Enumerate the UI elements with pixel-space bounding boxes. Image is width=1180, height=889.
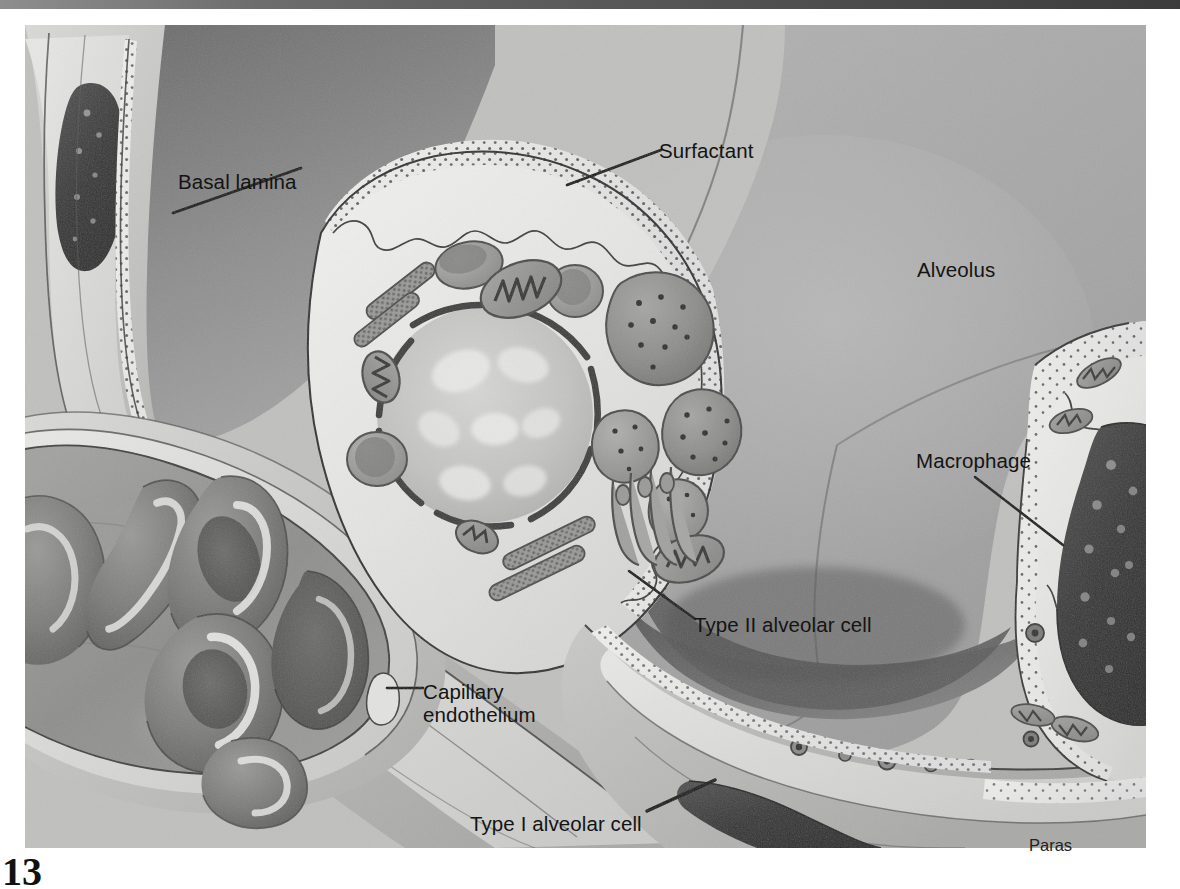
label-macrophage: Macrophage bbox=[916, 449, 1031, 472]
page-number: 13 bbox=[2, 852, 42, 889]
artist-signature: Paras bbox=[1029, 836, 1072, 855]
erythrocyte bbox=[201, 738, 307, 828]
illustration-plate bbox=[25, 25, 1146, 848]
scan-edge-band bbox=[0, 0, 1180, 9]
illustration-svg bbox=[25, 25, 1146, 848]
label-type-i-alveolar-cell: Type I alveolar cell bbox=[470, 812, 642, 835]
label-type-ii-alveolar-cell: Type II alveolar cell bbox=[694, 613, 872, 636]
label-basal-lamina: Basal lamina bbox=[178, 170, 297, 193]
phagosome bbox=[1026, 624, 1044, 642]
lamellar-body bbox=[592, 410, 659, 482]
label-capillary-endothelium: Capillary endothelium bbox=[423, 680, 536, 726]
label-surfactant: Surfactant bbox=[659, 139, 753, 162]
phagosome bbox=[1024, 732, 1039, 747]
lamellar-body bbox=[662, 389, 741, 475]
endothelial-vesicle bbox=[367, 673, 400, 725]
label-alveolus: Alveolus bbox=[917, 258, 995, 281]
lamellar-body bbox=[606, 272, 714, 385]
